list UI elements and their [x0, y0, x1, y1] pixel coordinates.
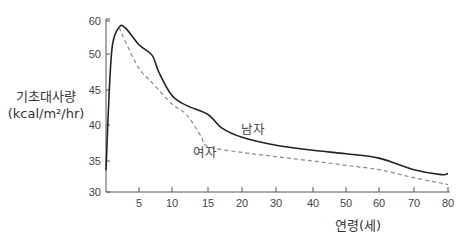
y-tick-label: 30 — [89, 186, 101, 198]
y-tick-label: 40 — [89, 119, 101, 131]
y-axis-label-line2: (kcal/m²/hr) — [8, 106, 85, 121]
x-tick-label: 80 — [442, 197, 454, 209]
x-tick-label: 5 — [136, 197, 142, 209]
x-tick-label: 10 — [166, 197, 178, 209]
y-axis: 303540455060 — [89, 15, 110, 198]
y-tick-label: 50 — [89, 48, 101, 60]
x-tick-label: 70 — [408, 197, 420, 209]
x-tick-label: 40 — [307, 197, 319, 209]
x-tick-label: 20 — [236, 197, 248, 209]
y-tick-label: 45 — [89, 84, 101, 96]
x-axis-label: 연령(세) — [335, 218, 381, 233]
male-series-line — [106, 25, 448, 174]
x-tick-label: 50 — [340, 197, 352, 209]
y-axis-label-line1: 기초대사량 — [16, 89, 76, 104]
series-label-male: 남자 — [241, 122, 265, 137]
series-label-female: 여자 — [193, 145, 217, 160]
x-axis: 5101520304050607080 — [106, 187, 454, 209]
bmr-line-chart: 303540455060 5101520304050607080 기초대사량 (… — [0, 0, 473, 245]
female-series-line — [119, 28, 448, 185]
x-tick-label: 60 — [373, 197, 385, 209]
y-tick-label: 60 — [89, 15, 101, 27]
series-layer — [106, 25, 448, 184]
x-tick-label: 15 — [202, 197, 214, 209]
x-tick-label: 30 — [270, 197, 282, 209]
y-tick-label: 35 — [89, 155, 101, 167]
